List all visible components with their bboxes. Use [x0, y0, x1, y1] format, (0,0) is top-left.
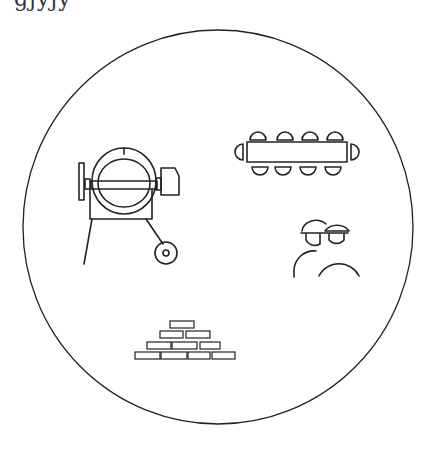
workers-hardhat-icon: [294, 220, 359, 277]
concrete-mixer-icon: [79, 148, 179, 264]
diagram-canvas: [0, 0, 432, 451]
conference-table-icon: [235, 132, 359, 175]
frame-circle: [23, 30, 413, 424]
brick-stack-icon: [135, 321, 235, 359]
